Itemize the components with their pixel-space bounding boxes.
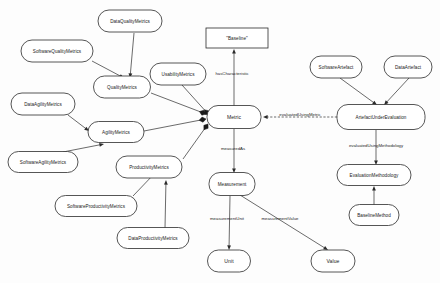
node-DataArtefact[interactable]: DataArtefact [384,56,432,78]
edge-Measurement-to-Unit [227,196,231,250]
edge-DataProductivityMetrics-to-ProductivityMetrics [164,180,168,228]
node-label: SoftwareQualityMetrics [33,49,82,54]
node-SoftwareAgilityMetrics[interactable]: SoftwareAgilityMetrics [8,152,78,173]
node-label: "Baseline" [226,36,248,41]
node-UsabilityMetrics[interactable]: UsabilityMetrics [150,63,206,85]
node-label: SoftwareAgilityMetrics [20,160,67,165]
arrow-head [372,186,376,191]
node-label: ArtefactUnderEvaluation [356,115,407,120]
edge-label-e13: measuredAs [221,146,245,151]
edge-label-e11: hasCharacteristic [215,71,249,76]
node-DataQualityMetrics[interactable]: DataQualityMetrics [98,10,162,32]
edge-line [340,78,374,103]
edge-ProductivityMetrics-to-Metric [183,124,208,159]
node-label: DataProductivityMetrics [128,236,178,241]
node-Value[interactable]: Value [311,250,355,272]
aggregation-diamond [199,117,206,122]
node-DataProductivityMetrics[interactable]: DataProductivityMetrics [117,228,189,249]
node-label: SoftwareProductivityMetrics [67,204,126,209]
edge-AgilityMetrics-to-Metric [144,117,206,131]
edge-line [151,93,200,112]
edge-DataArtefact-to-ArtefactUnderEvaluation [384,78,409,105]
node-label: AgilityMetrics [102,130,130,135]
edge-line [92,61,121,76]
node-SoftwareQualityMetrics[interactable]: SoftwareQualityMetrics [21,40,93,62]
arrow-head [232,49,236,54]
edge-line [240,195,325,248]
edge-SoftwareQualityMetrics-to-QualityMetrics [92,61,124,78]
node-Measurement[interactable]: Measurement [209,173,255,196]
node-label: DataQualityMetrics [110,19,150,24]
node-AgilityMetrics[interactable]: AgilityMetrics [88,122,144,143]
node-Metric[interactable]: Metric [207,106,261,129]
edge-label-e18: evaluatedUsingMethodology [349,143,404,148]
edge-line [387,78,409,102]
node-BaselineMethod[interactable]: BaselineMethod [349,205,399,226]
node-label: Value [327,258,340,264]
node-DataAgilityMetrics[interactable]: DataAgilityMetrics [11,93,75,115]
edge-label-e15: measurementValue [262,216,300,221]
node-ArtefactUnderEvaluation[interactable]: ArtefactUnderEvaluation [337,105,425,130]
edge-line [130,33,134,74]
node-label: Metric [227,114,242,120]
node-SoftwareProductivityMetrics[interactable]: SoftwareProductivityMetrics [55,196,137,217]
edge-line [182,85,205,111]
arrow-head [263,115,268,119]
nodes-layer: DataQualityMetricsSoftwareQualityMetrics… [8,10,432,272]
node-EvaluationMethodology[interactable]: EvaluationMethodology [337,165,411,186]
edge-line [68,115,86,129]
arrow-head [164,180,168,185]
edge-line [144,120,200,131]
node-ProductivityMetrics[interactable]: ProductivityMetrics [116,156,182,178]
edge-Measurement-to-Value [240,195,328,250]
arrow-head [227,245,231,250]
edge-line [183,129,205,159]
edge-DataQualityMetrics-to-QualityMetrics [129,33,134,78]
edge-Metric-to-Baseline [232,49,236,106]
edge-line [165,184,166,228]
edge-labels-layer: hasCharacteristicevaluatedUsingMetricmea… [210,71,404,221]
edge-label-e12: evaluatedUsingMetric [279,112,321,117]
edge-SoftwareArtefact-to-ArtefactUnderEvaluation [340,78,377,105]
node-label: ProductivityMetrics [129,165,169,170]
arrow-head [323,246,328,250]
aggregation-diamond [204,124,208,130]
node-label: DataAgilityMetrics [24,102,62,107]
edge-line [63,145,100,152]
edge-SoftwareAgilityMetrics-to-AgilityMetrics [63,143,104,152]
ontology-diagram: DataQualityMetricsSoftwareQualityMetrics… [0,0,440,283]
node-QualityMetrics[interactable]: QualityMetrics [94,76,151,98]
node-label: SoftwareArtefact [319,65,354,70]
edge-BaselineMethod-to-EvaluationMethodology [372,186,376,205]
edge-UsabilityMetrics-to-Metric [182,85,209,115]
node-label: BaselineMethod [357,213,391,218]
edge-QualityMetrics-to-Metric [151,93,206,115]
edge-DataAgilityMetrics-to-AgilityMetrics [68,115,89,131]
node-label: Unit [224,258,234,264]
node-label: Measurement [218,182,247,187]
node-Baseline[interactable]: "Baseline" [206,28,268,48]
node-label: QualityMetrics [107,85,137,90]
node-SoftwareArtefact[interactable]: SoftwareArtefact [310,56,362,78]
arrow-head [99,143,104,147]
node-label: DataArtefact [395,65,422,70]
node-label: UsabilityMetrics [162,72,196,77]
edge-line [133,176,152,196]
node-Unit[interactable]: Unit [208,250,251,272]
node-label: EvaluationMethodology [350,173,399,178]
edge-label-e14: measurementUnit [210,216,245,221]
diagram-canvas: DataQualityMetricsSoftwareQualityMetrics… [0,0,440,283]
